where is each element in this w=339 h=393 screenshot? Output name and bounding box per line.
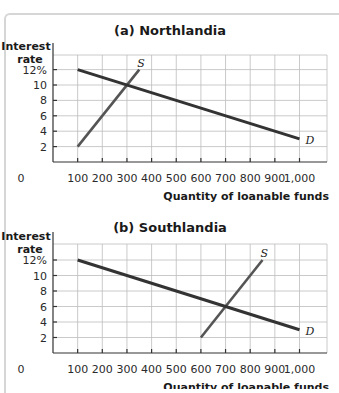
y-tick-label: 4 — [40, 316, 47, 329]
x-tick-label: 900 — [264, 172, 285, 185]
x-tick-label: 500 — [166, 172, 187, 185]
x-tick-label: 300 — [116, 172, 137, 185]
y-tick-label: 8 — [40, 285, 47, 298]
y-axis-label: rate — [17, 243, 43, 256]
x-tick-label: 1,000 — [284, 363, 316, 376]
y-axis-label: rate — [17, 53, 43, 66]
x-tick-label: 0 — [18, 363, 25, 376]
x-tick-label: 600 — [190, 363, 211, 376]
x-tick-label: 1,000 — [284, 172, 316, 185]
demand-label: D — [305, 325, 315, 338]
y-axis-label: Interest — [1, 40, 50, 53]
y-tick-label: 10 — [33, 270, 47, 283]
x-axis-label: Quantity of loanable funds — [163, 381, 329, 389]
x-tick-label: 800 — [240, 363, 261, 376]
supply-curve — [78, 70, 140, 147]
supply-label: S — [137, 57, 145, 70]
x-tick-label: 900 — [264, 363, 285, 376]
y-tick-label: 6 — [40, 110, 47, 123]
x-tick-label: 100 — [67, 363, 88, 376]
y-tick-label: 2 — [40, 332, 47, 345]
x-tick-label: 600 — [190, 172, 211, 185]
y-tick-label: 6 — [40, 301, 47, 314]
chart-panel-b: (b) Southlandia0100200300400500600700800… — [1, 220, 329, 389]
x-tick-label: 800 — [240, 172, 261, 185]
x-axis-label: Quantity of loanable funds — [163, 190, 329, 203]
x-tick-label: 300 — [116, 363, 137, 376]
y-axis-label: Interest — [1, 230, 50, 243]
demand-label: D — [305, 134, 315, 147]
supply-label: S — [261, 247, 269, 260]
x-tick-label: 700 — [215, 363, 236, 376]
x-tick-label: 200 — [92, 363, 113, 376]
demand-curve — [78, 260, 300, 330]
x-tick-label: 0 — [18, 172, 25, 185]
y-tick-label: 4 — [40, 125, 47, 138]
x-tick-label: 500 — [166, 363, 187, 376]
y-tick-label: 10 — [33, 79, 47, 92]
supply-curve — [201, 260, 263, 338]
y-tick-label: 2 — [40, 141, 47, 154]
x-tick-label: 400 — [141, 363, 162, 376]
x-tick-label: 700 — [215, 172, 236, 185]
chart-panel-a: (a) Northlandia0100200300400500600700800… — [1, 23, 329, 203]
x-tick-label: 100 — [67, 172, 88, 185]
chart-title: (b) Southlandia — [113, 220, 227, 235]
x-tick-label: 400 — [141, 172, 162, 185]
x-tick-label: 200 — [92, 172, 113, 185]
y-tick-label: 8 — [40, 94, 47, 107]
chart-title: (a) Northlandia — [114, 23, 226, 38]
